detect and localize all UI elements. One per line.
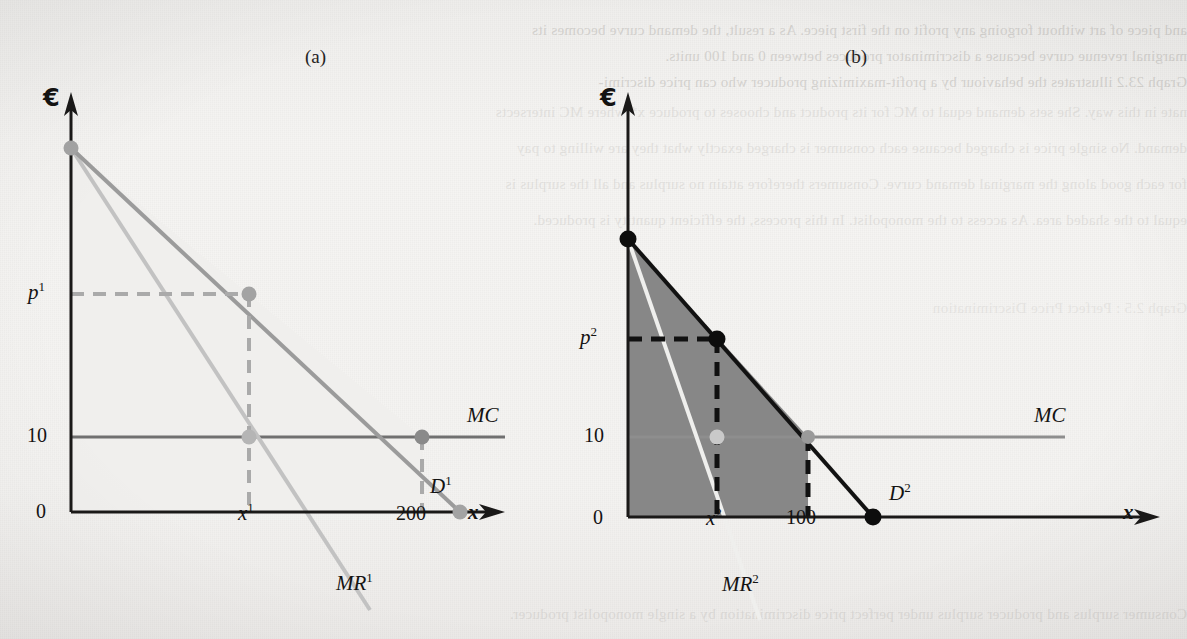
panel-b (620, 92, 1161, 620)
panel-b-demand-label-base: D (889, 481, 904, 505)
panel-b-mc-label: MC (1034, 403, 1066, 428)
panel-a-demand-label: D1 (430, 473, 452, 499)
figure-page: and piece of art without forgoing any pr… (0, 0, 1187, 639)
panel-b-demand-x-intercept-dot (865, 509, 882, 526)
panel-b-mr-mc-intersection-dot (710, 430, 725, 445)
panel-b-quantity-label-sup: 2 (715, 505, 722, 520)
panel-a (64, 92, 506, 610)
panel-a-price-label-base: p (28, 280, 39, 304)
panel-a-quantity-label-sup: 1 (247, 500, 254, 515)
figure-svg (0, 0, 1187, 639)
panel-b-demand-label: D2 (889, 480, 911, 506)
panel-b-shaded-region (628, 239, 808, 517)
panel-b-monopoly-point-dot (709, 331, 726, 348)
panel-a-x-axis-label: x (468, 500, 479, 525)
panel-b-origin-label: 0 (593, 506, 603, 529)
panel-b-mr-label-base: MR (722, 572, 752, 596)
panel-b-x-axis-label: x (1123, 500, 1134, 525)
panel-a-monopoly-point-dot (242, 287, 257, 302)
panel-a-price-label: p1 (28, 279, 45, 305)
panel-a-price-label-sup: 1 (39, 279, 46, 294)
panel-b-price-label-sup: 2 (591, 324, 598, 339)
panel-a-quantity-label: x1 (238, 500, 254, 526)
panel-a-competitive-quantity-tick: 200 (396, 502, 426, 525)
panel-b-mc-value-label: 10 (584, 424, 604, 447)
panel-b-mr-label-sup: 2 (752, 571, 759, 586)
panel-b-demand-label-sup: 2 (904, 480, 911, 495)
panel-b-demand-intercept-dot (620, 231, 637, 248)
panel-a-demand-label-base: D (430, 474, 445, 498)
panel-a-demand-x-intercept-dot (453, 505, 468, 520)
panel-a-quantity-label-base: x (238, 501, 247, 525)
panel-a-origin-label: 0 (36, 500, 46, 523)
panel-a-mr-label-base: MR (336, 571, 366, 595)
panel-a-demand-label-sup: 1 (445, 473, 452, 488)
panel-a-demand-intercept-dot (64, 141, 79, 156)
panel-b-price-label: p2 (580, 324, 597, 350)
panel-b-marginal-revenue-label: MR2 (722, 571, 759, 597)
panel-b-price-label-base: p (580, 325, 591, 349)
panel-a-marginal-revenue-label: MR1 (336, 570, 373, 596)
panel-a-y-axis-symbol: € (43, 84, 60, 112)
panel-b-y-axis-symbol: € (600, 84, 617, 112)
panel-a-caption: (a) (305, 46, 326, 68)
panel-b-quantity-label: x2 (706, 505, 722, 531)
panel-b-competitive-quantity-tick: 100 (786, 506, 816, 529)
panel-a-mc-label: MC (467, 403, 499, 428)
panel-a-mr-label-sup: 1 (366, 570, 373, 585)
panel-b-caption: (b) (845, 46, 867, 68)
panel-b-quantity-label-base: x (706, 506, 715, 530)
panel-b-competitive-point-dot (801, 430, 815, 444)
panel-a-mr-mc-intersection-dot (242, 430, 257, 445)
panel-a-mc-value-label: 10 (27, 424, 47, 447)
panel-a-competitive-point-dot (415, 430, 430, 445)
